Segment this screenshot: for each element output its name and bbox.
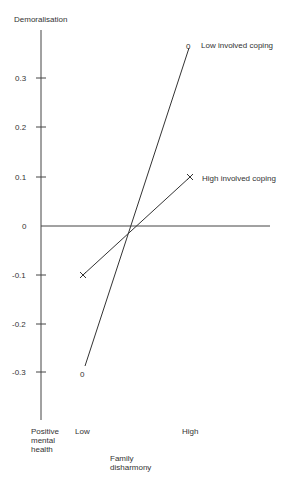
- marker-zero-icon: 0: [186, 42, 191, 51]
- x-category-low: Low: [75, 427, 90, 436]
- positive-mental-health-label: Positive: [31, 427, 60, 436]
- positive-mental-health-label: mental: [31, 436, 55, 445]
- y-tick-label: -0.3: [12, 368, 26, 377]
- y-axis-title: Demoralisation: [14, 15, 67, 24]
- positive-mental-health-label: health: [31, 445, 53, 454]
- x-axis-title: Family: [110, 454, 134, 463]
- y-tick-label: -0.1: [12, 271, 26, 280]
- series-label-low: Low involved coping: [201, 41, 273, 50]
- series-label-high: High involved coping: [202, 174, 276, 183]
- y-tick-label: 0.1: [15, 173, 27, 182]
- chart: 0.3 0.2 0.1 0 -0.1 -0.2 -0.3 Demoralisat…: [0, 0, 281, 483]
- y-tick-label: 0.2: [15, 123, 27, 132]
- y-tick-label: 0: [22, 222, 27, 231]
- y-tick-label: -0.2: [12, 320, 26, 329]
- series-low-involved-coping-line: [85, 48, 189, 366]
- y-tick-label: 0.3: [15, 74, 27, 83]
- x-axis-title: disharmony: [110, 463, 151, 472]
- x-category-high: High: [182, 427, 198, 436]
- marker-zero-icon: 0: [80, 370, 85, 379]
